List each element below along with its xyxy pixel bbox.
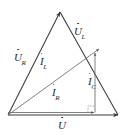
label-current-ic: IC — [88, 76, 96, 90]
label-voltage-ur: UR — [14, 52, 26, 66]
label-current-ir: IR — [52, 87, 60, 101]
right-angle-marker — [88, 106, 95, 113]
label-voltage-u: U — [58, 120, 66, 134]
label-ic-subscript: C — [91, 83, 96, 91]
label-ir-subscript: R — [55, 94, 59, 102]
phasor-diagram-canvas — [0, 0, 132, 140]
label-u-symbol: U — [58, 120, 66, 131]
phasor-diagram-figure: UR UL IL IR IC U — [0, 0, 132, 140]
label-il-subscript: L — [43, 63, 47, 71]
label-ur-subscript: R — [21, 59, 25, 67]
label-voltage-ul: UL — [74, 26, 86, 40]
vector-u-l-line — [60, 12, 118, 115]
label-ul-subscript: L — [81, 33, 85, 41]
label-current-il: IL — [40, 56, 48, 70]
